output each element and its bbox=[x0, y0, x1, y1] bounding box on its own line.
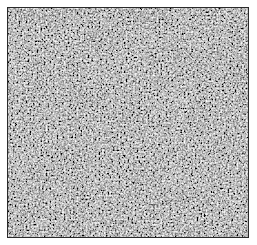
micrograph-image bbox=[7, 7, 249, 238]
cell-texture bbox=[8, 8, 249, 238]
